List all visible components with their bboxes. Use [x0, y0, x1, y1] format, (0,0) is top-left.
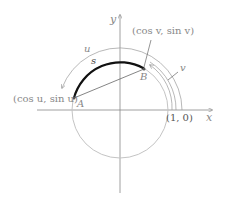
y-axis-label: y: [110, 14, 116, 25]
angle-v-label: v: [180, 63, 186, 73]
point-a-label: A: [77, 99, 84, 109]
unit-point-label: (1, 0): [166, 113, 193, 123]
angle-u-label: u: [84, 44, 90, 54]
x-axis-label: x: [206, 112, 212, 123]
arc-s-label: s: [91, 56, 96, 66]
point-a-coord-label: (cos u, sin u): [13, 94, 78, 104]
point-b-coord-label: (cos v, sin v): [132, 26, 194, 36]
chord-ab: [74, 69, 144, 98]
arc-s: [74, 62, 144, 98]
point-b-label: B: [140, 72, 147, 82]
